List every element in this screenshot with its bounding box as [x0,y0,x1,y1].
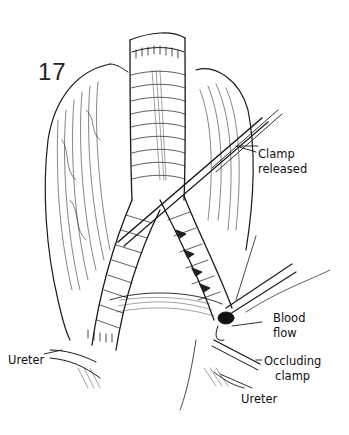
label-line: Clamp [258,147,307,162]
label-ureter-left: Ureter [8,353,44,368]
surgical-illustration: 17 Clamp released Blood flow Occluding c… [0,0,349,435]
label-ureter-right: Ureter [241,392,277,407]
label-line: clamp [264,369,321,384]
figure-number: 17 [38,58,67,86]
label-line: Blood [273,311,305,326]
label-line: released [258,162,307,177]
label-blood-flow: Blood flow [273,311,305,341]
label-line: flow [273,326,305,341]
label-line: Occluding [264,354,321,369]
label-clamp-released: Clamp released [258,147,307,177]
label-occluding-clamp: Occluding clamp [264,354,321,384]
